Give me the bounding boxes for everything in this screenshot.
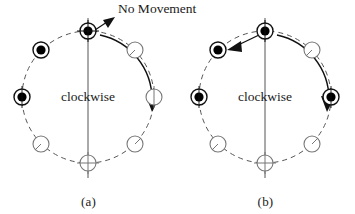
panel-a-diagram: clockwise — [0, 0, 177, 200]
clockwise-label-a: clockwise — [61, 89, 115, 104]
node-a-03-00 — [146, 86, 162, 108]
panel-b-diagram: clockwise — [177, 0, 354, 200]
node-a-12-00 — [77, 20, 99, 42]
node-b-09-00 — [191, 86, 207, 108]
no-movement-annotation: No Movement — [118, 1, 196, 17]
node-a-07-30 — [33, 136, 49, 152]
figure-root: clockwise (a) — [0, 0, 355, 214]
node-b-01-30 — [304, 42, 320, 58]
node-a-04-30 — [127, 136, 143, 152]
node-b-07-30 — [210, 136, 226, 152]
panel-b: clockwise (b) — [177, 0, 354, 214]
node-b-10-30 — [210, 42, 226, 58]
node-a-06-00 — [77, 152, 99, 174]
clockwise-label-b: clockwise — [238, 89, 292, 104]
caption-a: (a) — [0, 194, 177, 210]
no-movement-arrowhead-a — [103, 17, 115, 28]
node-a-01-30 — [127, 42, 143, 58]
caption-b: (b) — [177, 194, 354, 210]
node-a-10-30 — [33, 42, 49, 58]
panel-a: clockwise (a) — [0, 0, 177, 214]
node-a-09-00 — [14, 86, 30, 108]
node-b-06-00 — [254, 152, 276, 174]
node-b-12-00 — [257, 20, 273, 42]
transfer-arrowhead-b — [227, 41, 242, 52]
node-b-04-30 — [304, 136, 320, 152]
